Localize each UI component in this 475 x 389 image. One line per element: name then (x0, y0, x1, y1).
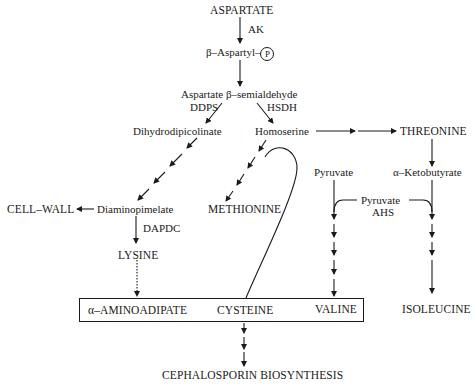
enzyme-ddps: DDPS (190, 101, 218, 114)
node-methionine: METHIONINE (208, 203, 281, 216)
node-diaminopimelate: Diaminopimelate (97, 203, 173, 216)
enzyme-ahs: AHS (372, 206, 394, 219)
node-cell-wall: CELL–WALL (7, 203, 74, 216)
curve-homoserine-to-cysteine (246, 148, 297, 298)
aspartyl-label: β–Aspartyl– (206, 46, 260, 58)
pathway-diagram: ASPARTATE AK β–Aspartyl–P Aspartate β–se… (0, 0, 475, 389)
node-valine: VALINE (315, 303, 357, 316)
node-cephalosporin-biosynthesis: CEPHALOSPORIN BIOSYNTHESIS (162, 369, 343, 382)
node-aminoadipate: α–AMINOADIPATE (88, 304, 187, 317)
node-lysine: LYSINE (118, 249, 158, 262)
enzyme-hsdh: HSDH (267, 101, 297, 114)
node-ketobutyrate: α–Ketobutyrate (393, 166, 462, 179)
enzyme-ak: AK (248, 23, 264, 36)
node-aspartate: ASPARTATE (210, 4, 273, 17)
node-aspartyl-phosphate: β–Aspartyl–P (206, 46, 274, 61)
node-pyruvate-left: Pyruvate (314, 166, 353, 179)
node-cysteine: CYSTEINE (217, 304, 273, 317)
node-isoleucine: ISOLEUCINE (402, 303, 471, 316)
phosphate-circle-icon: P (260, 47, 274, 61)
node-homoserine: Homoserine (255, 125, 309, 138)
enzyme-dapdc: DAPDC (143, 222, 180, 235)
node-aspartate-semialdehyde: Aspartate β–semialdehyde (181, 88, 297, 101)
node-dihydrodipicolinate: Dihydrodipicolinate (133, 125, 222, 138)
node-threonine: THREONINE (400, 125, 467, 138)
